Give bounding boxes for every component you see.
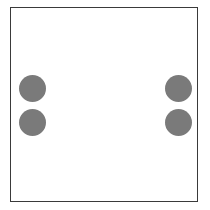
dot-right-top	[165, 75, 192, 102]
dot-right-bottom	[165, 109, 192, 136]
dot-left-top	[19, 75, 46, 102]
square-frame	[10, 7, 198, 202]
dot-left-bottom	[19, 109, 46, 136]
